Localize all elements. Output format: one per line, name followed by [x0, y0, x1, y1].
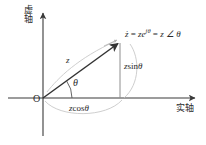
complex-plane-phasor-figure: 虚 轴 实轴 O z θ ż = zejθ = z ∠ θ zsinθ zcos… [0, 0, 206, 145]
real-axis-label: 实轴 [176, 104, 194, 113]
imaginary-axis-label-char2: 轴 [22, 15, 34, 24]
tip-equation-label: ż = zejθ = z ∠ θ [125, 28, 181, 39]
tip-equation-rhs: z ∠ θ [160, 29, 180, 39]
phasor-vector [43, 44, 118, 99]
imaginary-axis-label: 虚 轴 [22, 6, 34, 24]
magnitude-label: z [66, 56, 70, 65]
horizontal-projection-fn: cos [73, 103, 85, 113]
vertical-projection-arg: θ [138, 61, 142, 71]
tip-equation-eq2: = [151, 29, 161, 39]
origin-label: O [33, 94, 40, 104]
tip-equation-eq1: = [129, 29, 139, 39]
tip-equation-exp-base: ze [138, 29, 146, 39]
magnitude-leader-arc [47, 41, 116, 92]
vertical-projection-leader-arc [124, 44, 137, 98]
angle-arc [67, 81, 73, 98]
horizontal-projection-arg: θ [85, 103, 89, 113]
angle-label: θ [73, 78, 78, 88]
horizontal-projection-label: zcosθ [69, 104, 89, 113]
vertical-projection-label: zsinθ [124, 62, 142, 71]
vertical-projection-fn: sin [128, 61, 139, 71]
